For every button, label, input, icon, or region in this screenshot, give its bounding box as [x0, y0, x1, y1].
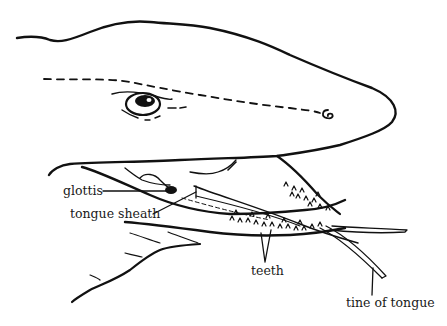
eye-icon — [112, 92, 186, 120]
nostril-icon — [323, 110, 333, 118]
head-drawing — [0, 0, 447, 326]
throat-line — [72, 244, 200, 302]
label-teeth: teeth — [251, 265, 284, 278]
tine-leader — [372, 268, 373, 295]
label-glottis: glottis — [63, 185, 103, 198]
upper-teeth — [284, 182, 330, 210]
head-outline — [17, 21, 396, 175]
glottis-opening — [165, 186, 177, 194]
figure-canvas: glottis tongue sheath teeth tine of tong… — [0, 0, 447, 326]
label-tine-of-tongue: tine of tongue — [346, 297, 435, 310]
label-tongue-sheath: tongue sheath — [70, 208, 160, 221]
